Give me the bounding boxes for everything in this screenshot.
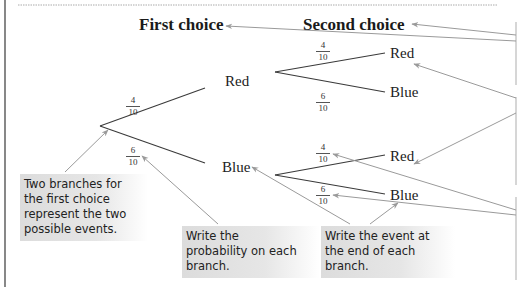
numerator: 6 xyxy=(316,92,330,103)
callout-line: the end of each xyxy=(325,244,449,259)
event-first-red: Red xyxy=(225,74,249,89)
probability-blue-red: 4 10 xyxy=(316,143,330,164)
arrow-branches-callout xyxy=(65,130,108,172)
denominator: 10 xyxy=(126,107,140,117)
callout-line: probability on each xyxy=(186,244,314,259)
callout-line: Write the event at xyxy=(325,229,449,244)
callout-line: Write the xyxy=(186,229,314,244)
probability-first-blue: 6 10 xyxy=(126,146,140,167)
arrow-to-frac-6-lower xyxy=(333,195,516,215)
arrow-to-second-choice xyxy=(412,24,516,35)
callout-write-event: Write the event at the end of each branc… xyxy=(321,226,455,278)
event-red-blue: Blue xyxy=(390,85,418,100)
callout-line: Two branches for xyxy=(24,177,142,192)
branch-first-blue xyxy=(100,126,205,163)
heading-second-choice: Second choice xyxy=(303,16,405,33)
arrow-to-frac-4-lower xyxy=(333,154,516,210)
callout-write-probability: Write the probability on each branch. xyxy=(182,226,320,278)
numerator: 6 xyxy=(316,185,330,196)
heading-first-choice: First choice xyxy=(139,16,224,33)
arrow-probability-callout xyxy=(142,156,218,224)
numerator: 6 xyxy=(126,146,140,157)
arrow-event-callout-blue-lower xyxy=(370,203,398,224)
callout-line: the first choice xyxy=(24,192,142,207)
callout-two-branches: Two branches for the first choice repres… xyxy=(20,174,148,241)
event-red-red: Red xyxy=(390,46,414,61)
probability-red-blue: 6 10 xyxy=(316,92,330,113)
event-blue-red: Red xyxy=(390,149,414,164)
denominator: 10 xyxy=(316,52,330,62)
denominator: 10 xyxy=(316,154,330,164)
callout-line: branch. xyxy=(186,259,314,274)
branch-red-blue xyxy=(275,72,385,92)
branch-blue-blue xyxy=(275,175,385,194)
probability-blue-blue: 6 10 xyxy=(316,185,330,206)
numerator: 4 xyxy=(316,143,330,154)
callout-line: branch. xyxy=(325,259,449,274)
callout-line: represent the two xyxy=(24,207,142,222)
branch-red-red xyxy=(275,53,385,72)
arrow-to-red-bottom xyxy=(414,113,516,164)
denominator: 10 xyxy=(316,196,330,206)
numerator: 4 xyxy=(126,96,140,107)
callout-line: possible events. xyxy=(24,222,142,237)
arrow-to-red-top xyxy=(414,64,516,98)
denominator: 10 xyxy=(316,103,330,113)
probability-first-red: 4 10 xyxy=(126,96,140,117)
denominator: 10 xyxy=(126,157,140,167)
event-blue-blue: Blue xyxy=(390,188,418,203)
numerator: 4 xyxy=(316,41,330,52)
branch-first-red xyxy=(100,88,205,126)
event-first-blue: Blue xyxy=(222,160,250,175)
probability-red-red: 4 10 xyxy=(316,41,330,62)
